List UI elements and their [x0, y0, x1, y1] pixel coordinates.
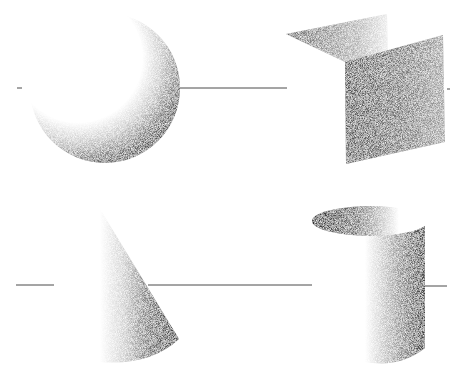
- cone-shape: [100, 209, 179, 363]
- cylinder-shape: [312, 206, 428, 363]
- folded-plane-shape: [286, 14, 445, 164]
- sphere-shape: [30, 13, 180, 163]
- drawing-canvas: [0, 0, 460, 378]
